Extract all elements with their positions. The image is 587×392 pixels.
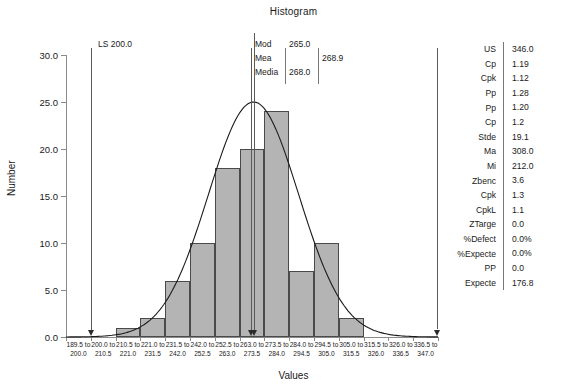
median-label: Media (255, 67, 278, 77)
stats-label: PP (440, 263, 503, 273)
stats-label: Stde (440, 132, 503, 142)
stats-row: Cp1.19 (440, 57, 580, 72)
lsl-annotation-label: LS 200.0 (98, 39, 132, 49)
bin-label: 336.5 to347.0 (403, 341, 449, 358)
stats-value: 0.0% (503, 232, 572, 247)
x-axis-label: Values (0, 370, 587, 381)
stats-row: Cpk1.12 (440, 71, 580, 86)
stats-row: PP0.0 (440, 261, 580, 276)
mean-arrow-line (254, 33, 255, 331)
stats-row: Cp1.2 (440, 115, 580, 130)
stats-label: Cp (440, 117, 503, 127)
stats-label: Ma (440, 146, 503, 156)
stats-row: Stde19.1 (440, 130, 580, 145)
stats-value: 0.0 (503, 261, 572, 276)
y-tick-label: 30.0 (40, 50, 59, 61)
stats-row: Zbenc3.6 (440, 173, 580, 188)
stats-label: Cpk (440, 190, 503, 200)
stats-label: US (440, 44, 503, 54)
stats-value: 212.0 (503, 159, 572, 174)
center-block-divider-left (285, 48, 286, 84)
stats-value: 1.28 (503, 86, 572, 101)
usl-arrow-head (434, 330, 440, 336)
stats-label: %Defect (440, 234, 503, 244)
stats-value: 0.0 (503, 217, 572, 232)
lsl-arrow-line (91, 48, 92, 331)
mean-label: Mea (255, 53, 272, 63)
y-tick-label: 25.0 (40, 97, 59, 108)
median-arrow-line (251, 48, 252, 331)
stats-value: 19.1 (503, 130, 572, 145)
stats-row: ZTarge0.0 (440, 217, 580, 232)
stats-label: ZTarge (440, 219, 503, 229)
mode-label: Mod (255, 39, 269, 49)
stats-row: %Defect0.0% (440, 232, 580, 247)
stats-value: 308.0 (503, 144, 572, 159)
stats-row: Pp1.20 (440, 100, 580, 115)
plot-area: 0.05.010.015.020.025.030.0 (66, 55, 438, 338)
stats-value: 346.0 (503, 42, 572, 57)
stats-label: Pp (440, 88, 503, 98)
stats-label: Pp (440, 103, 503, 113)
mean-value: 268.9 (322, 53, 343, 63)
stats-row: Ma308.0 (440, 144, 580, 159)
stats-row: Expecte176.8 (440, 276, 580, 291)
lsl-arrow-head (88, 330, 94, 336)
median-value: 268.0 (289, 67, 310, 77)
bin-tick-labels: 189.5 to200.0200.0 to210.5210.5 to221.02… (66, 341, 438, 363)
stats-label: Mi (440, 161, 503, 171)
stats-label: CpkL (440, 205, 503, 215)
statistics-table: US346.0Cp1.19Cpk1.12Pp1.28Pp1.20Cp1.2Std… (440, 42, 580, 290)
stats-row: CpkL1.1 (440, 203, 580, 218)
stats-row: Cpk1.3 (440, 188, 580, 203)
y-tick-label: 15.0 (40, 191, 59, 202)
stats-value: 3.6 (503, 173, 572, 188)
y-tick-label: 20.0 (40, 144, 59, 155)
stats-value: 1.1 (503, 203, 572, 218)
stats-value: 1.2 (503, 115, 572, 130)
stats-value: 1.3 (503, 188, 572, 203)
stats-value: 1.12 (503, 71, 572, 86)
stats-label: Cp (440, 59, 503, 69)
stats-value: 1.19 (503, 57, 572, 72)
stats-label: Expecte (440, 278, 503, 288)
stats-label: Cpk (440, 73, 503, 83)
stats-value: 176.8 (503, 276, 572, 291)
stats-label: Zbenc (440, 176, 503, 186)
stats-value: 1.20 (503, 100, 572, 115)
y-axis-label: Number (6, 160, 17, 196)
stats-value: 0.0% (503, 246, 572, 261)
stats-label: %Expecte (440, 249, 503, 259)
usl-arrow-line (437, 48, 438, 329)
center-block-divider-right (318, 48, 319, 84)
y-tick-label: 5.0 (45, 285, 58, 296)
stats-row: Mi212.0 (440, 159, 580, 174)
stats-row: %Expecte0.0% (440, 246, 580, 261)
histogram-figure: Histogram Number Values 0.05.010.015.020… (0, 0, 587, 392)
mode-value: 265.0 (289, 39, 310, 49)
stats-row: US346.0 (440, 42, 580, 57)
mean-arrow-head (251, 330, 257, 336)
y-tick-label: 10.0 (40, 238, 59, 249)
chart-title: Histogram (0, 6, 587, 17)
stats-row: Pp1.28 (440, 86, 580, 101)
